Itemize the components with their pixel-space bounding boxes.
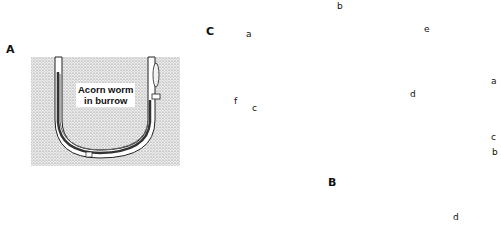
panel-c-label-f: f [234, 97, 237, 106]
burrow-caption-line1: Acorn worm [78, 84, 133, 95]
panel-c-label-a: a [246, 30, 252, 39]
panel-label-a: A [6, 44, 15, 55]
burrow-caption: Acorn worm in burrow [76, 83, 135, 107]
panel-a-burrow [31, 57, 180, 166]
panel-c-label-e: e [424, 25, 430, 34]
panel-label-c: C [206, 26, 214, 37]
panel-c-label-b: b [337, 2, 343, 11]
panel-b-label-d: d [453, 213, 459, 222]
panel-b-label-b: b [492, 148, 498, 157]
panel-c-label-c: c [252, 104, 257, 113]
panel-label-b: B [328, 177, 336, 188]
panel-c-label-d: d [410, 90, 416, 99]
burrow-caption-line2: in burrow [78, 95, 133, 106]
panel-b-label-c: c [491, 133, 496, 142]
panel-b-label-a: a [491, 77, 497, 86]
